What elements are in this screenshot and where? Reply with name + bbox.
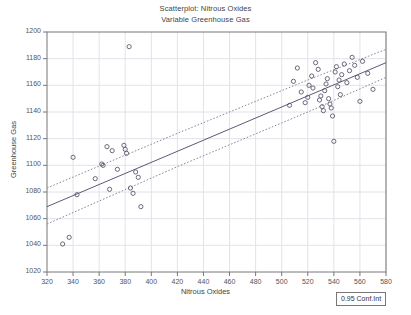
x-tick-label: 580 bbox=[371, 278, 401, 285]
y-tick-label: 1160 bbox=[9, 80, 41, 87]
y-tick-label: 1040 bbox=[9, 240, 41, 247]
plot-canvas bbox=[0, 0, 411, 315]
y-tick-label: 1200 bbox=[9, 27, 41, 34]
axis-ticks bbox=[43, 32, 386, 276]
confidence-band-lower-line bbox=[47, 77, 386, 224]
scatterplot-window: Scatterplot: Nitrous Oxides Variable Gre… bbox=[0, 0, 411, 315]
y-tick-label: 1180 bbox=[9, 54, 41, 61]
regression-line bbox=[47, 63, 386, 207]
confidence-interval-legend: 0.95 Conf.Int bbox=[336, 292, 386, 306]
y-tick-label: 1060 bbox=[9, 214, 41, 221]
y-axis-title: Greenhouse Gas bbox=[9, 90, 18, 210]
data-points bbox=[61, 45, 376, 247]
y-tick-label: 1020 bbox=[9, 267, 41, 274]
